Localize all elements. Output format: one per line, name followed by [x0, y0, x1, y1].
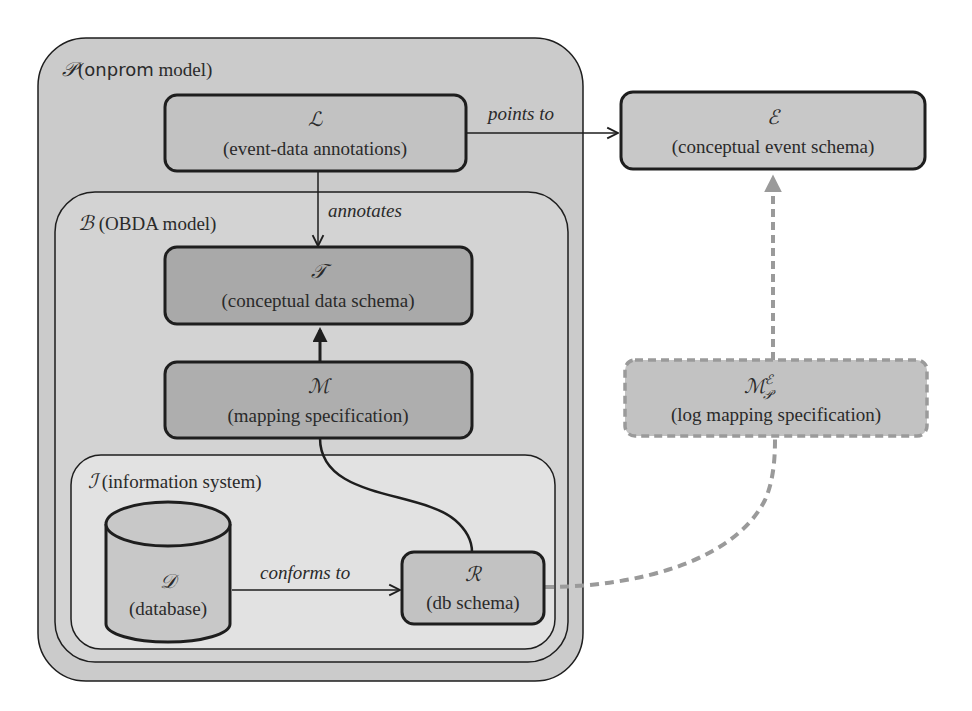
m-label: (mapping specification) — [228, 405, 409, 427]
r-symbol: ℛ — [465, 562, 483, 586]
node-event-data-annotations[interactable]: ℒ (event-data annotations) — [165, 95, 466, 171]
l-symbol: ℒ — [308, 107, 323, 131]
l-label: (event-data annotations) — [223, 138, 407, 160]
obda-model-label: ℬ (OBDA model) — [78, 211, 216, 235]
mpe-symbol: ℳℰ𝒫 — [744, 372, 776, 402]
node-conceptual-data-schema[interactable]: 𝒯 (conceptual data schema) — [165, 247, 472, 324]
d-label: (database) — [129, 598, 207, 620]
r-label: (db schema) — [426, 592, 519, 614]
t-label: (conceptual data schema) — [221, 290, 414, 312]
onprom-model-label: 𝒫(onprom model) — [62, 57, 212, 81]
m-symbol: ℳ — [308, 374, 332, 398]
e-label: (conceptual event schema) — [672, 136, 875, 158]
node-mapping-specification[interactable]: ℳ (mapping specification) — [165, 362, 472, 438]
annotates-label: annotates — [328, 200, 402, 221]
node-log-mapping-specification[interactable]: ℳℰ𝒫 (log mapping specification) — [625, 360, 927, 436]
node-db-schema[interactable]: ℛ (db schema) — [402, 552, 544, 624]
conforms-to-label: conforms to — [260, 562, 350, 583]
information-system-label: ℐ (information system) — [88, 469, 262, 493]
e-symbol: ℰ — [767, 105, 781, 129]
points-to-label: points to — [486, 103, 554, 124]
mpe-label: (log mapping specification) — [671, 404, 881, 426]
node-conceptual-event-schema[interactable]: ℰ (conceptual event schema) — [621, 92, 925, 169]
node-database[interactable]: 𝒟 (database) — [106, 502, 230, 642]
diagram-canvas: 𝒫(onprom model) ℬ (OBDA model) ℐ (inform… — [0, 0, 972, 711]
